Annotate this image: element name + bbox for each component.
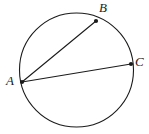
vertex-label-b: B <box>99 1 107 14</box>
vertex-dot-c <box>129 62 133 66</box>
geometry-canvas <box>0 0 149 134</box>
chord-segment-ac <box>22 64 131 82</box>
chord-segment-ab <box>22 21 96 82</box>
geometry-figure: A B C <box>0 0 149 134</box>
vertex-dot-a <box>20 80 24 84</box>
vertex-label-c: C <box>135 55 144 68</box>
vertex-dot-b <box>94 19 98 23</box>
vertex-label-a: A <box>6 74 14 87</box>
